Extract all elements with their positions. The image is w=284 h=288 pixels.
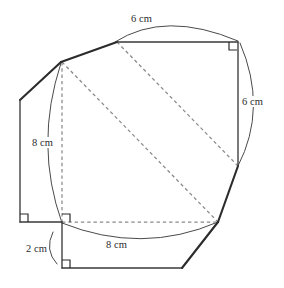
dimension-label-right: 6 cm xyxy=(240,96,265,107)
right-angle-marker-left-lower xyxy=(20,214,28,222)
right-angle-marker-top-right xyxy=(229,42,237,50)
outer-edge-right-lower-diagonal xyxy=(218,166,238,222)
right-angle-marker-bottom-left xyxy=(62,260,70,268)
outer-edge-top-left-slant xyxy=(61,42,117,62)
right-angle-marker-inner-square xyxy=(62,214,70,222)
dimension-arc-bottom-8cm xyxy=(62,222,218,239)
dimension-arc-top-6cm xyxy=(115,26,238,42)
dimension-label-small: 2 cm xyxy=(24,243,49,254)
outer-edge-upper-left-diagonal xyxy=(20,62,61,100)
dimension-label-left: 8 cm xyxy=(30,137,55,148)
geometry-figure: 6 cm 6 cm 8 cm 8 cm 2 cm xyxy=(0,0,284,288)
dimension-arc-2cm xyxy=(49,232,57,264)
dimension-label-bottom: 8 cm xyxy=(103,239,130,250)
inner-square-diagonal-parallel xyxy=(117,42,238,166)
inner-square-diagonal-main xyxy=(62,62,218,222)
dimension-label-top: 6 cm xyxy=(128,13,155,24)
